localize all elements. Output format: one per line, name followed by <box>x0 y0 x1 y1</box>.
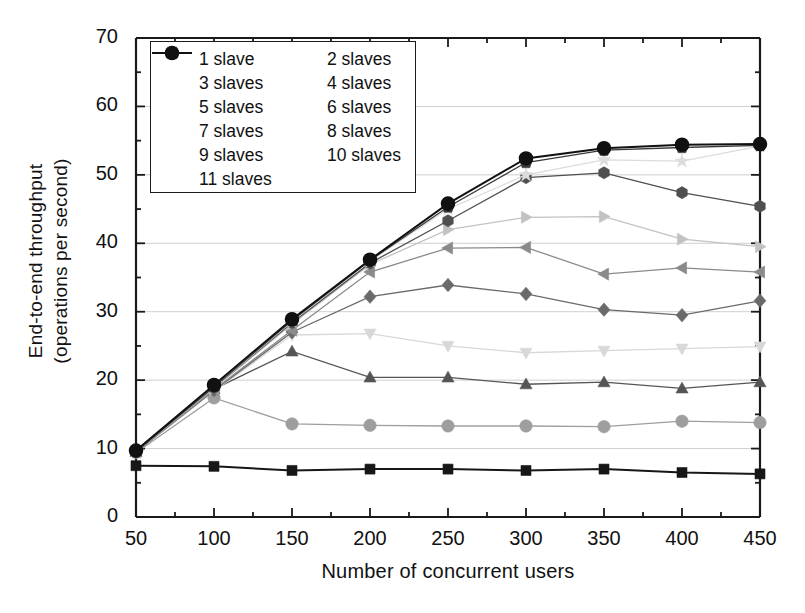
legend-label: 9 slaves <box>197 145 263 166</box>
x-tick-label: 350 <box>569 527 639 550</box>
legend-marker-circle-icon <box>283 48 325 70</box>
legend-marker-triangle-down-icon <box>283 72 325 94</box>
series-line <box>136 351 760 452</box>
data-point <box>676 262 687 274</box>
data-point <box>286 418 298 430</box>
data-point <box>598 268 609 280</box>
data-point <box>442 371 454 382</box>
data-point <box>131 461 141 471</box>
legend-marker-pentagon-icon <box>283 144 325 166</box>
y-tick-label: 40 <box>66 230 118 253</box>
legend-marker-triangle-right-icon <box>155 120 197 142</box>
legend-item[interactable]: 3 slaves <box>155 71 283 95</box>
series-4-slaves <box>130 329 766 458</box>
data-point <box>442 242 453 254</box>
x-tick-label: 250 <box>413 527 483 550</box>
legend-label: 2 slaves <box>325 49 391 70</box>
legend-label: 10 slaves <box>325 145 401 166</box>
y-tick-label: 0 <box>66 504 118 527</box>
data-point <box>599 167 609 179</box>
data-point <box>365 464 375 474</box>
x-tick-label: 400 <box>647 527 717 550</box>
x-tick-label: 450 <box>725 527 795 550</box>
legend: 1 slave2 slaves3 slaves4 slaves5 slaves6… <box>150 41 416 193</box>
y-tick-label: 30 <box>66 299 118 322</box>
x-tick-label: 300 <box>491 527 561 550</box>
legend-item[interactable]: 5 slaves <box>155 95 283 119</box>
data-point <box>676 308 688 322</box>
y-tick-label: 60 <box>66 93 118 116</box>
legend-marker-hexagon-icon <box>283 120 325 142</box>
legend-item[interactable]: 11 slaves <box>155 167 421 191</box>
data-point <box>598 303 610 317</box>
legend-label: 5 slaves <box>197 97 263 118</box>
legend-item[interactable]: 10 slaves <box>283 143 421 167</box>
legend-label: 11 slaves <box>197 169 272 190</box>
data-point <box>754 342 766 353</box>
data-point <box>443 464 453 474</box>
chart-figure: End-to-end throughput (operations per se… <box>0 0 805 613</box>
data-point <box>598 346 610 357</box>
data-point <box>754 294 766 308</box>
data-point <box>520 348 532 359</box>
x-tick-label: 150 <box>257 527 327 550</box>
legend-item[interactable]: 7 slaves <box>155 119 283 143</box>
data-point <box>677 468 687 478</box>
data-point <box>676 344 688 355</box>
legend-label: 4 slaves <box>325 73 391 94</box>
legend-label: 3 slaves <box>197 73 263 94</box>
data-point <box>599 464 609 474</box>
data-point <box>755 200 765 212</box>
y-tick-label: 20 <box>66 367 118 390</box>
legend-label: 7 slaves <box>197 121 263 142</box>
legend-label: 8 slaves <box>325 121 391 142</box>
legend-marker-triangle-left-icon <box>283 96 325 118</box>
legend-item[interactable]: 8 slaves <box>283 119 421 143</box>
data-point <box>286 345 298 356</box>
data-point <box>755 469 765 479</box>
data-point <box>209 461 219 471</box>
data-point <box>442 420 454 432</box>
x-tick-label: 100 <box>179 527 249 550</box>
data-point <box>287 465 297 475</box>
data-point <box>443 215 453 227</box>
data-point <box>521 211 532 223</box>
legend-item[interactable]: 4 slaves <box>283 71 421 95</box>
legend-item[interactable]: 6 slaves <box>283 95 421 119</box>
series-3-slaves <box>130 345 766 456</box>
y-tick-label: 10 <box>66 436 118 459</box>
data-point <box>599 211 610 223</box>
data-point <box>677 187 687 199</box>
data-point <box>675 154 689 167</box>
legend-label: 1 slave <box>197 49 254 70</box>
data-point <box>676 415 688 427</box>
legend-marker-star-icon <box>155 144 197 166</box>
y-tick-label: 70 <box>66 25 118 48</box>
data-point <box>754 416 766 428</box>
data-point <box>598 420 610 432</box>
y-tick-label: 50 <box>66 162 118 185</box>
data-point <box>598 376 610 387</box>
x-tick-label: 200 <box>335 527 405 550</box>
legend-item[interactable]: 9 slaves <box>155 143 283 167</box>
legend-marker-triangle-up-icon <box>155 72 197 94</box>
data-point <box>754 376 766 387</box>
legend-item[interactable]: 2 slaves <box>283 47 421 71</box>
data-point <box>364 419 376 431</box>
x-tick-label: 50 <box>101 527 171 550</box>
data-point <box>364 290 376 304</box>
legend-label: 6 slaves <box>325 97 391 118</box>
series-1-slave <box>131 461 765 479</box>
legend-marker-circle-split-icon <box>155 168 197 190</box>
data-point <box>521 465 531 475</box>
data-point <box>442 278 454 292</box>
data-point <box>520 287 532 301</box>
legend-marker-diamond-icon <box>155 96 197 118</box>
data-point <box>520 420 532 432</box>
